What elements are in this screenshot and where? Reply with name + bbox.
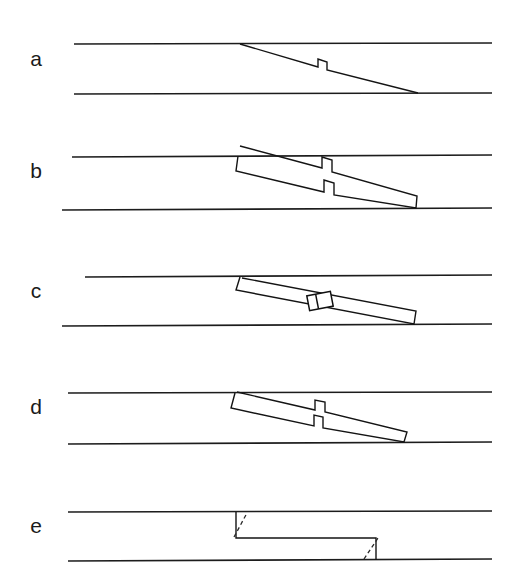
panel-e [68, 511, 492, 561]
upper-wall [68, 511, 492, 512]
step-trace [236, 512, 376, 560]
panel-label-c: c [31, 279, 42, 302]
panel-c [62, 275, 492, 326]
panel-a [74, 43, 492, 94]
upper-wall [85, 275, 492, 277]
panels-layer [62, 43, 492, 561]
lower-wall [68, 559, 492, 561]
lower-wall [68, 442, 492, 444]
figure-container: abcde [0, 0, 518, 586]
vein-geometry-diagram: abcde [0, 0, 518, 586]
panel-d [68, 392, 492, 444]
upper-wall [68, 392, 492, 393]
panel-b [62, 146, 492, 210]
panel-label-b: b [30, 159, 42, 182]
vein-trace [240, 44, 418, 93]
vein-band [231, 392, 407, 442]
panel-label-e: e [30, 514, 42, 537]
lower-wall [62, 208, 492, 210]
upper-wall [74, 43, 492, 44]
lower-wall [62, 324, 492, 326]
panel-label-d: d [30, 395, 42, 418]
lower-wall [74, 93, 492, 94]
panel-labels-layer: abcde [30, 47, 42, 537]
panel-label-a: a [30, 47, 42, 70]
